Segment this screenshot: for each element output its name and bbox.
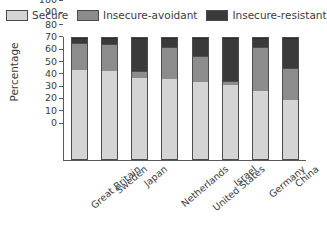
y-axis-tick-label: 40: [45, 69, 57, 79]
bar-segment-secure[interactable]: [283, 100, 298, 160]
y-axis-tick: 30: [45, 81, 63, 91]
legend-label: Insecure-avoidant: [103, 9, 197, 21]
y-axis-tick-label: 90: [45, 7, 57, 17]
bar-segment-avoidant[interactable]: [193, 56, 208, 82]
bar-sweden[interactable]: [101, 37, 118, 160]
bar-segment-resistant[interactable]: [283, 38, 298, 68]
bar-israel[interactable]: [222, 37, 239, 160]
y-axis-tick: 50: [45, 57, 63, 67]
bar-netherlands[interactable]: [161, 37, 178, 160]
bar-great-britain[interactable]: [71, 37, 88, 160]
bar-segment-avoidant[interactable]: [72, 43, 87, 70]
legend-swatch-icon: [77, 10, 99, 21]
y-axis-tick-label: 30: [45, 81, 57, 91]
y-axis-tick: 10: [45, 106, 63, 116]
bar-segment-avoidant[interactable]: [132, 71, 147, 78]
x-axis: Great BritainSwedenJapanNetherlandsUnite…: [63, 162, 305, 232]
bar-segment-resistant[interactable]: [253, 38, 268, 47]
bar-segment-avoidant[interactable]: [253, 47, 268, 91]
y-axis-tick: 20: [45, 93, 63, 103]
y-axis-label: Percentage: [8, 32, 20, 112]
bars-container: [64, 37, 306, 160]
y-axis-tick-label: 100: [39, 0, 57, 5]
y-axis-tick-label: 60: [45, 44, 57, 54]
y-axis-tick-label: 80: [45, 20, 57, 30]
bar-china[interactable]: [282, 37, 299, 160]
y-axis-tick: 100: [39, 0, 63, 5]
bar-segment-secure[interactable]: [102, 71, 117, 159]
y-axis-tick-label: 70: [45, 32, 57, 42]
y-axis-tick-mark: [59, 12, 63, 13]
y-axis-tick: 70: [45, 32, 63, 42]
bar-united-states[interactable]: [192, 37, 209, 160]
y-axis-tick-mark: [59, 24, 63, 25]
y-axis-tick-label: 0: [51, 118, 57, 128]
bar-segment-resistant[interactable]: [193, 38, 208, 56]
plot-area: [63, 37, 306, 161]
bar-japan[interactable]: [131, 37, 148, 160]
y-axis-tick: 90: [45, 7, 63, 17]
bar-segment-resistant[interactable]: [223, 38, 238, 81]
bar-segment-secure[interactable]: [253, 91, 268, 159]
legend-item-insecure-resistant: Insecure-resistant: [206, 9, 326, 21]
bar-segment-secure[interactable]: [132, 78, 147, 159]
legend-item-insecure-avoidant: Insecure-avoidant: [77, 9, 197, 21]
bar-segment-resistant[interactable]: [132, 38, 147, 71]
y-axis-tick-label: 50: [45, 57, 57, 67]
y-axis-tick-label: 10: [45, 106, 57, 116]
y-axis-tick: 0: [51, 118, 63, 128]
legend-label: Insecure-resistant: [232, 9, 326, 21]
bar-segment-avoidant[interactable]: [283, 68, 298, 100]
bar-segment-resistant[interactable]: [162, 38, 177, 47]
bar-segment-secure[interactable]: [72, 70, 87, 159]
y-axis-tick: 80: [45, 20, 63, 30]
legend-swatch-icon: [206, 10, 228, 21]
bar-segment-avoidant[interactable]: [102, 44, 117, 71]
y-axis-tick-mark: [59, 0, 63, 1]
y-axis-tick: 60: [45, 44, 63, 54]
bar-segment-secure[interactable]: [162, 79, 177, 159]
bar-segment-secure[interactable]: [223, 85, 238, 159]
bar-germany[interactable]: [252, 37, 269, 160]
y-axis-tick-label: 20: [45, 93, 57, 103]
y-axis-tick: 40: [45, 69, 63, 79]
bar-segment-secure[interactable]: [193, 82, 208, 159]
bar-segment-avoidant[interactable]: [162, 47, 177, 79]
